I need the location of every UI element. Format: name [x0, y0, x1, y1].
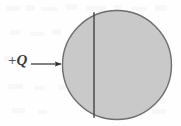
charge-symbol: Q — [16, 52, 27, 68]
figure-container: +Q — [0, 0, 181, 126]
gray-sphere — [63, 11, 172, 120]
charge-label: +Q — [8, 53, 27, 68]
